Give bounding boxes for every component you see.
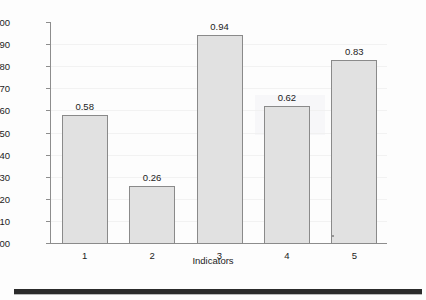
bottom-rule	[14, 289, 422, 295]
y-axis-tick	[46, 199, 50, 200]
plot-area: 1.000.900.800.700.600.500.400.300.200.10…	[50, 22, 390, 244]
y-axis-label: 1.00	[0, 17, 10, 28]
y-axis-label: 0.20	[0, 193, 10, 204]
bar[interactable]	[129, 186, 175, 244]
y-axis-label: 0.50	[0, 127, 10, 138]
y-axis-label: 0.80	[0, 61, 10, 72]
y-axis-tick	[46, 66, 50, 67]
bar-value-label: 0.58	[75, 101, 94, 112]
y-axis-label: 0.60	[0, 105, 10, 116]
x-axis-title: Indicators	[0, 255, 426, 266]
y-axis-tick	[46, 44, 50, 45]
bar-value-label: 0.62	[278, 92, 297, 103]
y-axis-tick	[46, 221, 50, 222]
bar[interactable]	[197, 35, 243, 244]
cut-off-title	[90, 0, 260, 6]
y-axis-label: 0.00	[0, 238, 10, 249]
y-axis-tick	[46, 88, 50, 89]
y-axis-tick	[46, 155, 50, 156]
scan-speck	[332, 235, 334, 237]
bar[interactable]	[264, 106, 310, 244]
bar-value-label: 0.83	[345, 46, 364, 57]
bar-value-label: 0.94	[210, 21, 229, 32]
y-axis-label: 0.90	[0, 39, 10, 50]
y-axis-label: 0.40	[0, 149, 10, 160]
y-axis-label: 0.30	[0, 171, 10, 182]
y-axis-tick	[46, 133, 50, 134]
y-axis-label: 0.10	[0, 215, 10, 226]
chart-page: 1.000.900.800.700.600.500.400.300.200.10…	[0, 0, 426, 300]
y-axis-tick	[46, 243, 50, 244]
bar-value-label: 0.26	[143, 172, 162, 183]
y-axis-tick	[46, 110, 50, 111]
bar[interactable]	[62, 115, 108, 244]
y-axis-label: 0.70	[0, 83, 10, 94]
bar[interactable]	[331, 60, 377, 244]
y-axis-tick	[46, 177, 50, 178]
y-axis-tick	[46, 22, 50, 23]
